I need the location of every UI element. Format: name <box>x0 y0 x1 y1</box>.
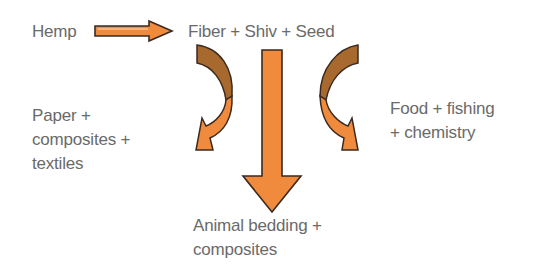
output-center-line-1: Animal bedding + <box>193 214 322 238</box>
output-center-line-2: composites <box>193 238 322 262</box>
output-left-line-1: Paper + <box>32 104 130 128</box>
output-right-line-1: Food + fishing <box>390 97 494 121</box>
source-label: Hemp <box>32 20 77 44</box>
curved-arrow-left-icon <box>196 45 232 150</box>
fiber-shiv-seed-label: Fiber + Shiv + Seed <box>188 20 334 44</box>
output-left-line-2: composites + <box>32 128 130 152</box>
arrow-down-icon <box>243 50 301 212</box>
output-right-label: Food + fishing + chemistry <box>390 97 494 145</box>
output-right-line-2: + chemistry <box>390 121 494 145</box>
curved-arrow-right-icon <box>320 45 358 150</box>
output-left-label: Paper + composites + textiles <box>32 104 130 176</box>
hemp-label: Hemp <box>32 20 77 44</box>
arrow-right-icon <box>95 21 172 41</box>
output-center-label: Animal bedding + composites <box>193 214 322 262</box>
output-left-line-3: textiles <box>32 152 130 176</box>
products-label: Fiber + Shiv + Seed <box>188 20 334 44</box>
